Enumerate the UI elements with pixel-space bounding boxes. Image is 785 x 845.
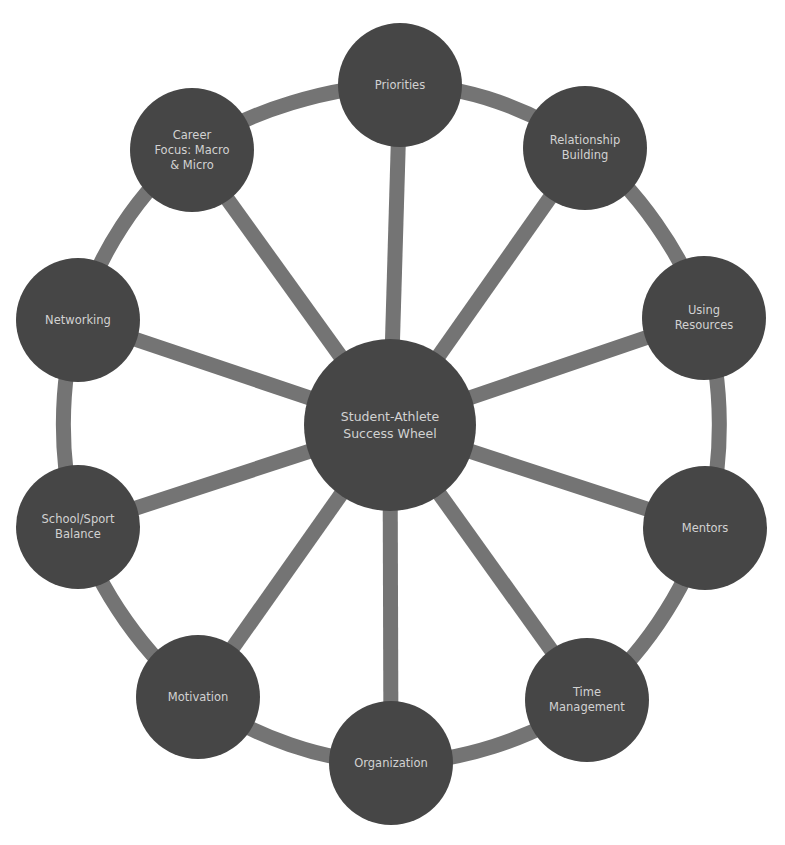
node-school-sport-balance: School/Sport Balance (16, 465, 140, 589)
node-priorities: Priorities (338, 23, 462, 147)
node-relationship-building: Relationship Building (523, 86, 647, 210)
node-career-focus-macro-micro: Career Focus: Macro & Micro (130, 88, 254, 212)
node-networking: Networking (16, 258, 140, 382)
node-using-resources: Using Resources (642, 256, 766, 380)
center-node: Student-Athlete Success Wheel (304, 339, 476, 511)
node-time-management: Time Management (525, 638, 649, 762)
node-organization: Organization (329, 701, 453, 825)
node-mentors: Mentors (643, 466, 767, 590)
node-motivation: Motivation (136, 635, 260, 759)
